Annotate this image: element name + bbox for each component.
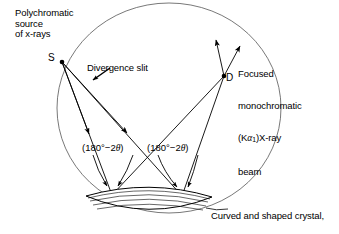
incident-ray-outer-arrow: [62, 62, 89, 134]
source-point-marker: [60, 60, 65, 65]
source-point-label: S: [48, 52, 55, 63]
angle-right-prefix: (180: [147, 142, 166, 153]
focused-beam-label: Focused monochromatic (Kα1)X-ray beam: [238, 48, 302, 198]
diffracted-ray-right: [182, 76, 224, 196]
source-label: Polychromatic source of x-rays: [15, 8, 73, 40]
angle-left-prefix: (180: [82, 142, 101, 153]
crystal-label: Curved and shaped crystal, the reflectin…: [211, 190, 324, 234]
focus-point-label: D: [226, 72, 233, 83]
angle-right-arrow-b: [188, 155, 198, 187]
angle-label-right: (180°−2θ): [147, 142, 189, 153]
crystal-line-1: Curved and shaped crystal,: [211, 211, 324, 222]
angle-right-middle: −2: [170, 142, 181, 153]
divergence-slit-label: Divergence slit: [87, 63, 148, 74]
focused-beam-line-3: (Kα1)X-ray: [238, 133, 302, 146]
angle-left-arrow-a: [93, 155, 107, 186]
kalpha-suffix: )X-ray: [256, 132, 281, 143]
focused-beam-line-4: beam: [238, 167, 302, 178]
focused-beam-line-2: monochromatic: [238, 101, 302, 112]
angle-left-arrow-b: [118, 155, 133, 186]
angle-left-suffix: ): [120, 142, 123, 153]
angle-right-arrow-a: [158, 155, 177, 187]
xray-monochromator-diagram: Polychromatic source of x-rays S Diverge…: [0, 0, 339, 234]
focused-beam-arrow-left: [216, 40, 224, 76]
kalpha-prefix: (K: [238, 132, 247, 143]
diffracted-ray-left: [112, 76, 224, 195]
focused-beam-line-1: Focused: [238, 69, 302, 80]
angle-right-suffix: ): [185, 142, 188, 153]
angle-left-middle: −2: [105, 142, 116, 153]
angle-label-left: (180°−2θ): [82, 142, 124, 153]
